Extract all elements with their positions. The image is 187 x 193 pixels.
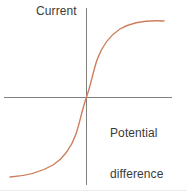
x-axis-label-line-2: difference xyxy=(110,168,163,182)
bottom-edge-rule xyxy=(0,190,187,191)
x-axis-label-line-1: Potential xyxy=(110,127,163,141)
x-axis-label: Potential difference xyxy=(110,100,163,193)
y-axis-label: Current xyxy=(36,5,77,19)
figure-container: Current Potential difference xyxy=(0,0,187,193)
